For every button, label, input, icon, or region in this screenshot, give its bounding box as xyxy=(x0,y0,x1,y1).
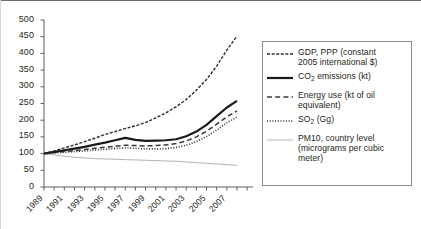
legend-line-sample-energy xyxy=(267,94,293,106)
series-line-thin-light xyxy=(44,154,237,166)
y-tick-label: 100 xyxy=(8,147,34,157)
y-tick-label: 50 xyxy=(8,164,34,174)
chart-legend: GDP, PPP (constant2005 international $)C… xyxy=(262,41,412,186)
legend-label-so2: SO2 (Gg) xyxy=(298,114,334,124)
legend-line-sample-so2 xyxy=(267,118,293,130)
legend-label-co2: CO2 emissions (kt) xyxy=(298,71,371,81)
y-tick-label: 200 xyxy=(8,114,34,124)
y-tick-label: 450 xyxy=(8,30,34,40)
legend-line-sample-co2 xyxy=(267,75,293,87)
series-line-dashed-long xyxy=(44,111,237,154)
chart-screenshot: 500450400350300250200150100500 198919911… xyxy=(0,0,421,229)
plot-area: 500450400350300250200150100500 198919911… xyxy=(0,0,260,229)
legend-entry-pm10[interactable]: PM10, country level(micrograms per cubic… xyxy=(267,133,407,164)
series-line-dashed-fine xyxy=(44,36,237,154)
legend-label-gdp: GDP, PPP (constant2005 international $) xyxy=(298,47,377,68)
y-tick-label: 350 xyxy=(8,64,34,74)
legend-entry-co2[interactable]: CO2 emissions (kt) xyxy=(267,71,407,87)
legend-line-sample-gdp xyxy=(267,51,293,63)
y-tick-label: 150 xyxy=(8,130,34,140)
legend-entry-so2[interactable]: SO2 (Gg) xyxy=(267,114,407,130)
y-tick-label: 250 xyxy=(8,97,34,107)
legend-label-pm10: PM10, country level(micrograms per cubic… xyxy=(298,133,384,164)
y-tick-label: 500 xyxy=(8,14,34,24)
y-tick-label: 0 xyxy=(8,181,34,191)
legend-entry-gdp[interactable]: GDP, PPP (constant2005 international $) xyxy=(267,47,407,68)
axes-layer xyxy=(41,20,254,191)
legend-entry-energy[interactable]: Energy use (kt of oilequivalent) xyxy=(267,90,407,111)
y-tick-label: 300 xyxy=(8,80,34,90)
legend-entry-list: GDP, PPP (constant2005 international $)C… xyxy=(267,47,407,164)
series-layer xyxy=(44,36,237,165)
legend-label-energy: Energy use (kt of oilequivalent) xyxy=(298,90,375,111)
legend-line-sample-pm10 xyxy=(267,137,293,149)
y-tick-label: 400 xyxy=(8,47,34,57)
